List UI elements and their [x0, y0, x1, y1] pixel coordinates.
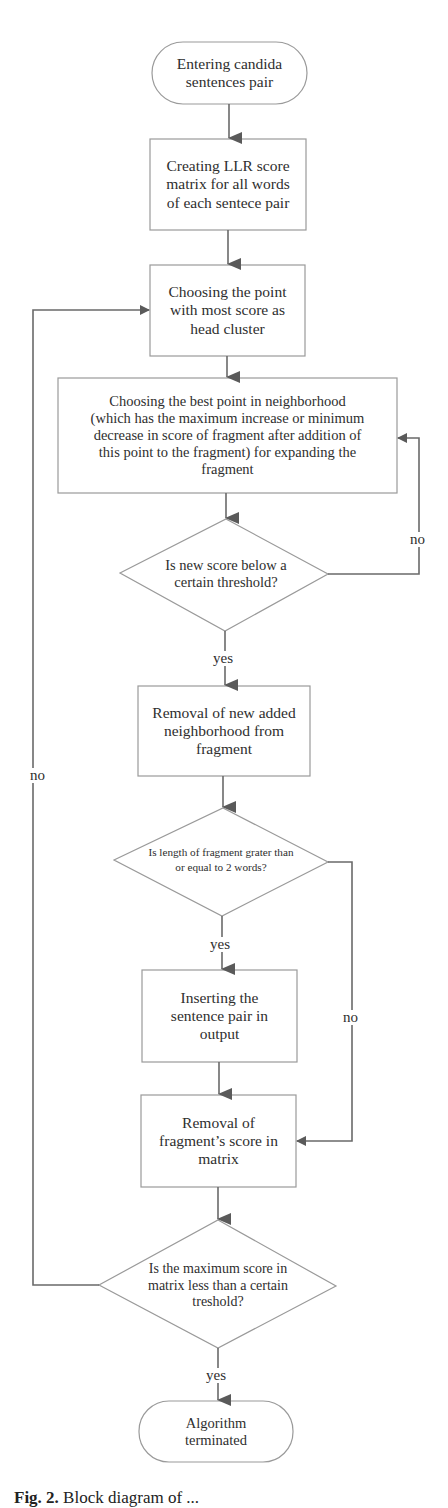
create-matrix-line-3: of each sentece pair: [166, 194, 290, 212]
remove-score-line-1: Removal of: [159, 1114, 278, 1132]
end-terminal: Algorithm terminated: [139, 1401, 293, 1462]
insert-output-step: Inserting the sentence pair in output: [142, 970, 297, 1062]
start-line-1: Entering candida: [177, 55, 282, 73]
remove-neighborhood-line-3: fragment: [152, 740, 295, 758]
threshold-yes-label: yes: [212, 651, 234, 666]
length-line-2: or equal to 2 words?: [148, 860, 293, 875]
max-line-1: Is the maximum score in: [148, 1261, 288, 1277]
end-line-1: Algorithm: [185, 1415, 247, 1432]
choose-best-line-2: (which has the maximum increase or minim…: [91, 410, 365, 427]
choose-best-line-4: this point to the fragment) for expandin…: [91, 444, 365, 461]
choose-best-line-5: fragment: [91, 461, 365, 478]
choose-best-line-3: decrease in score of fragment after addi…: [91, 427, 365, 444]
remove-score-line-2: fragment’s score in: [159, 1132, 278, 1150]
choose-head-step: Choosing the point with most score as he…: [150, 265, 305, 356]
edge-length-no: [297, 862, 352, 1141]
remove-neighborhood-step: Removal of new added neighborhood from f…: [138, 686, 310, 776]
choose-head-line-3: head cluster: [169, 320, 287, 338]
choose-best-line-1: Choosing the best point in neighborhood: [91, 393, 365, 410]
caption-prefix: Fig. 2.: [14, 1488, 59, 1507]
caption-text: Block diagram of ...: [63, 1488, 199, 1507]
length-yes-label: yes: [209, 937, 231, 952]
start-terminal: Entering candida sentences pair: [152, 42, 307, 104]
max-yes-label: yes: [205, 1368, 227, 1383]
remove-neighborhood-line-2: neighborhood from: [152, 722, 295, 740]
remove-neighborhood-line-1: Removal of new added: [152, 704, 295, 722]
max-decision: Is the maximum score in matrix less than…: [126, 1258, 310, 1314]
choose-head-line-2: with most score as: [169, 301, 287, 319]
start-line-2: sentences pair: [177, 73, 282, 91]
end-line-2: terminated: [185, 1432, 247, 1449]
figure-caption: Fig. 2. Block diagram of ...: [14, 1488, 199, 1508]
create-matrix-line-1: Creating LLR score: [166, 157, 290, 175]
insert-output-line-1: Inserting the: [171, 989, 268, 1007]
remove-score-step: Removal of fragment’s score in matrix: [141, 1095, 296, 1187]
length-decision: Is length of fragment grater than or equ…: [126, 840, 316, 880]
choose-head-line-1: Choosing the point: [169, 283, 287, 301]
max-line-3: treshold?: [148, 1294, 288, 1310]
length-line-1: Is length of fragment grater than: [148, 845, 293, 860]
choose-best-step: Choosing the best point in neighborhood …: [58, 378, 397, 493]
insert-output-line-3: output: [171, 1025, 268, 1043]
threshold-decision: Is new score below a certain threshold?: [140, 548, 312, 600]
length-no-label: no: [342, 1010, 359, 1025]
create-matrix-step: Creating LLR score matrix for all words …: [150, 139, 306, 230]
remove-score-line-3: matrix: [159, 1150, 278, 1168]
max-no-label: no: [29, 768, 46, 783]
create-matrix-line-2: matrix for all words: [166, 175, 290, 193]
threshold-line-2: certain threshold?: [165, 574, 287, 591]
threshold-line-1: Is new score below a: [165, 557, 287, 574]
max-line-2: matrix less than a certain: [148, 1278, 288, 1294]
threshold-no-label: no: [409, 532, 426, 547]
insert-output-line-2: sentence pair in: [171, 1007, 268, 1025]
